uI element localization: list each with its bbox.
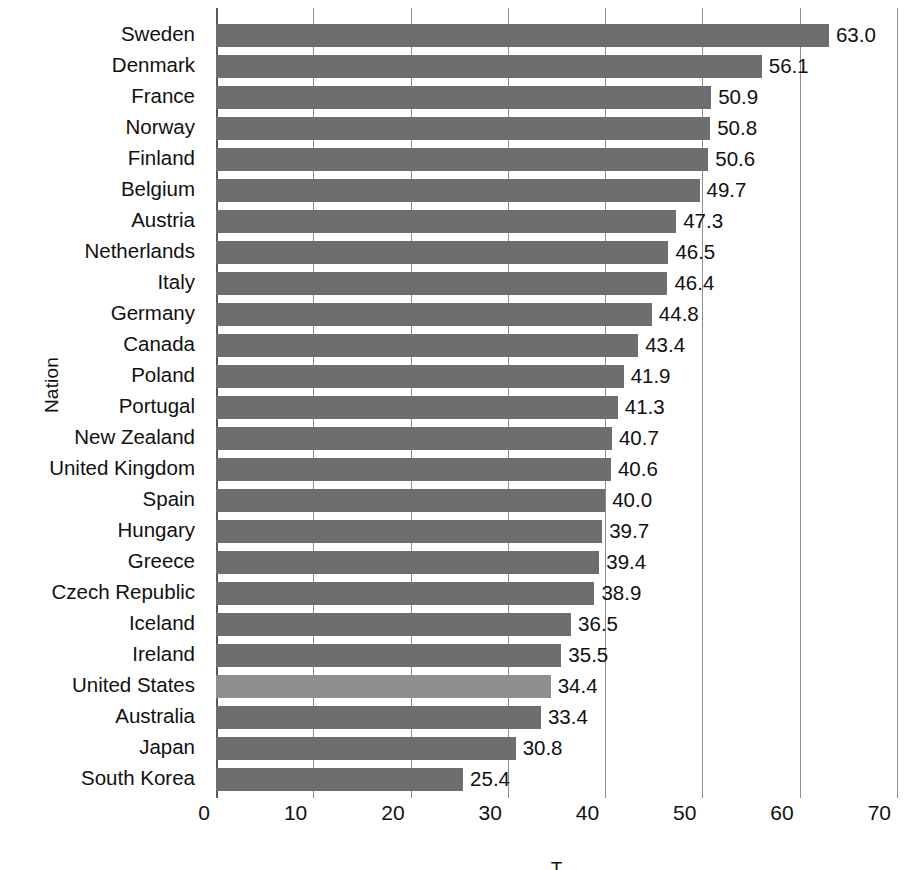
bar-row[interactable]: 46.5	[216, 238, 898, 269]
bar[interactable]	[216, 396, 618, 419]
bar-row[interactable]: 44.8	[216, 300, 898, 331]
bar-value-label: 40.0	[605, 487, 652, 513]
bar[interactable]	[216, 272, 667, 295]
x-tick-label: 20	[381, 800, 410, 826]
x-tick-label: 50	[673, 800, 702, 826]
x-tick-label: 40	[576, 800, 605, 826]
bar-row[interactable]: 41.3	[216, 393, 898, 424]
x-tick-label: 70	[868, 800, 897, 826]
category-label: South Korea	[0, 766, 205, 790]
bar-row[interactable]: 38.9	[216, 579, 898, 610]
bar-value-label: 36.5	[571, 611, 618, 637]
category-label: Sweden	[0, 22, 205, 46]
bar-row[interactable]: 50.8	[216, 114, 898, 145]
category-label: France	[0, 84, 205, 108]
bar-row[interactable]: 36.5	[216, 610, 898, 641]
bar-row[interactable]: 35.5	[216, 641, 898, 672]
bar-chart: Nation SwedenDenmarkFranceNorwayFinlandB…	[0, 0, 915, 870]
bar-row[interactable]: 39.7	[216, 517, 898, 548]
bar-row[interactable]: 30.8	[216, 734, 898, 765]
bar[interactable]	[216, 458, 611, 481]
bar-row[interactable]: 40.6	[216, 455, 898, 486]
category-label: Netherlands	[0, 239, 205, 263]
bar[interactable]	[216, 241, 668, 264]
bar-value-label: 47.3	[676, 208, 723, 234]
bar-value-label: 34.4	[551, 673, 598, 699]
category-label: New Zealand	[0, 425, 205, 449]
bar-row[interactable]: 33.4	[216, 703, 898, 734]
bar[interactable]	[216, 489, 605, 512]
bar[interactable]	[216, 210, 676, 233]
bar[interactable]	[216, 768, 463, 791]
bar[interactable]	[216, 706, 541, 729]
bar-value-label: 39.4	[599, 549, 646, 575]
category-label: Greece	[0, 549, 205, 573]
bar-value-label: 50.8	[710, 115, 757, 141]
bar-value-label: 25.4	[463, 766, 510, 792]
category-label: Ireland	[0, 642, 205, 666]
bar-row[interactable]: 50.9	[216, 83, 898, 114]
bar-value-label: 46.4	[667, 270, 714, 296]
bar[interactable]	[216, 179, 700, 202]
bar[interactable]	[216, 644, 561, 667]
bar-value-label: 30.8	[516, 735, 563, 761]
category-label: Poland	[0, 363, 205, 387]
category-label: Japan	[0, 735, 205, 759]
bar-row[interactable]: 47.3	[216, 207, 898, 238]
bar-row[interactable]: 63.0	[216, 21, 898, 52]
bar-row[interactable]: 46.4	[216, 269, 898, 300]
bar[interactable]	[216, 86, 711, 109]
x-axis-tick-labels: 010203040506070	[216, 800, 898, 834]
bar-row[interactable]: 40.0	[216, 486, 898, 517]
bar-value-label: 63.0	[829, 22, 876, 48]
bar-row[interactable]: 34.4	[216, 672, 898, 703]
x-tick-label: 10	[284, 800, 313, 826]
plot-area: 63.056.150.950.850.649.747.346.546.444.8…	[216, 8, 898, 798]
bar[interactable]	[216, 365, 624, 388]
x-tick-label: 0	[198, 800, 216, 826]
bar[interactable]	[216, 551, 599, 574]
bar[interactable]	[216, 737, 516, 760]
bar-value-label: 43.4	[638, 332, 685, 358]
bar-value-label: 50.9	[711, 84, 758, 110]
bar[interactable]	[216, 427, 612, 450]
bar[interactable]	[216, 613, 571, 636]
bar-row[interactable]: 49.7	[216, 176, 898, 207]
category-label: United States	[0, 673, 205, 697]
category-label: United Kingdom	[0, 456, 205, 480]
category-label: Australia	[0, 704, 205, 728]
category-label: Germany	[0, 301, 205, 325]
bar[interactable]	[216, 117, 710, 140]
bar[interactable]	[216, 675, 551, 698]
bar[interactable]	[216, 303, 652, 326]
bar-row[interactable]: 56.1	[216, 52, 898, 83]
bar-row[interactable]: 50.6	[216, 145, 898, 176]
bar-value-label: 46.5	[668, 239, 715, 265]
category-label-column: SwedenDenmarkFranceNorwayFinlandBelgiumA…	[0, 21, 205, 795]
bar-row[interactable]: 39.4	[216, 548, 898, 579]
bar-value-label: 40.7	[612, 425, 659, 451]
bar-value-label: 50.6	[708, 146, 755, 172]
bar[interactable]	[216, 24, 829, 47]
category-label: Austria	[0, 208, 205, 232]
bar[interactable]	[216, 55, 762, 78]
bar-row[interactable]: 25.4	[216, 765, 898, 796]
bar[interactable]	[216, 148, 708, 171]
category-label: Canada	[0, 332, 205, 356]
bar[interactable]	[216, 334, 638, 357]
bar-value-label: 38.9	[594, 580, 641, 606]
category-label: Czech Republic	[0, 580, 205, 604]
category-label: Belgium	[0, 177, 205, 201]
bar-value-label: 40.6	[611, 456, 658, 482]
bar-value-label: 33.4	[541, 704, 588, 730]
bar-row[interactable]: 40.7	[216, 424, 898, 455]
bar[interactable]	[216, 582, 594, 605]
bar-value-label: 41.3	[618, 394, 665, 420]
bar-value-label: 56.1	[762, 53, 809, 79]
bar-row[interactable]: 41.9	[216, 362, 898, 393]
bar-row[interactable]: 43.4	[216, 331, 898, 362]
bar-value-label: 35.5	[561, 642, 608, 668]
category-label: Denmark	[0, 53, 205, 77]
x-axis-title: T	[216, 858, 897, 870]
bar[interactable]	[216, 520, 602, 543]
